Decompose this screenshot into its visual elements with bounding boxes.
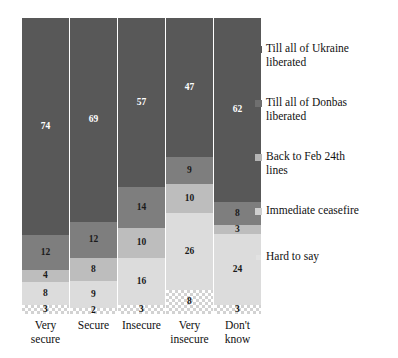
stacked-bar-chart: 7412483Verysecure6912892Secure571410163I…	[0, 0, 398, 358]
bar-stack: 571410163	[118, 18, 165, 314]
bar-segment: 10	[166, 184, 213, 214]
bar-segment: 8	[22, 282, 69, 305]
bar-stack: 7412483	[22, 18, 69, 314]
legend-item[interactable]: Immediate ceasefire	[255, 204, 398, 218]
bar-group: 571410163	[118, 18, 165, 314]
bar-segment-value: 10	[137, 238, 147, 248]
bar-segment: 57	[118, 18, 165, 187]
bar-segment: 8	[214, 202, 261, 226]
legend-swatch-icon	[255, 100, 262, 107]
legend-item[interactable]: Till all of Ukraineliberated	[255, 42, 398, 69]
bar-segment-value: 9	[187, 166, 192, 176]
bar-segment-value: 24	[233, 265, 243, 275]
bar-segment-value: 8	[43, 289, 48, 299]
legend-swatch-icon	[255, 208, 262, 215]
bar-segment-value: 3	[235, 305, 240, 315]
bar-segment: 14	[118, 187, 165, 228]
plot-area: 7412483Verysecure6912892Secure571410163I…	[0, 0, 252, 358]
bar-segment: 12	[22, 235, 69, 270]
bar-segment-value: 2	[91, 306, 96, 316]
bar-stack: 6283243	[214, 18, 261, 314]
legend-swatch-icon	[255, 46, 262, 53]
bar-segment: 16	[118, 258, 165, 305]
bar-segment: 8	[166, 290, 213, 314]
bar-segment-value: 8	[91, 265, 96, 275]
legend-swatch-icon	[256, 255, 261, 260]
legend-label: Immediate ceasefire	[266, 204, 359, 218]
bar-group: 7412483	[22, 18, 69, 314]
bar-segment-value: 16	[137, 277, 147, 287]
bar-segment-value: 10	[185, 194, 195, 204]
legend-label-line2: liberated	[266, 110, 347, 124]
bar-segment: 4	[22, 270, 69, 282]
bar-segment: 62	[214, 18, 261, 202]
legend-label-line1: Till all of Donbas	[266, 96, 347, 110]
legend-swatch-icon	[255, 154, 262, 161]
bar-segment-value: 74	[41, 122, 51, 132]
legend-item[interactable]: Back to Feb 24thlines	[255, 150, 398, 177]
bar-group: 47910268	[166, 18, 213, 314]
bar-segment-value: 12	[89, 235, 99, 245]
bar-segment: 8	[70, 258, 117, 282]
bar-segment-value: 69	[89, 115, 99, 125]
legend-label-line2: liberated	[266, 56, 349, 70]
bar-segment: 69	[70, 18, 117, 222]
legend-label-line1: Hard to say	[266, 250, 319, 264]
bar-segment-value: 26	[185, 247, 195, 257]
category-label-line2: know	[207, 332, 269, 346]
bar-segment-value: 9	[91, 290, 96, 300]
bar-segment: 26	[166, 213, 213, 290]
bar-segment: 9	[70, 281, 117, 308]
legend-item[interactable]: Hard to say	[255, 250, 398, 264]
category-label-line2: secure	[15, 332, 77, 346]
bar-segment-value: 3	[139, 305, 144, 315]
legend-label-line1: Immediate ceasefire	[266, 204, 359, 218]
legend-label: Hard to say	[266, 250, 319, 264]
bar-stack: 6912892	[70, 18, 117, 314]
bar-segment-value: 62	[233, 105, 243, 115]
bar-segment-value: 57	[137, 98, 147, 108]
bar-segment-value: 47	[185, 83, 195, 93]
bar-segment: 74	[22, 18, 69, 235]
bar-segment-value: 8	[235, 209, 240, 219]
bar-segment: 10	[118, 228, 165, 258]
bar-segment-value: 4	[43, 271, 48, 281]
category-label: Don'tknow	[207, 318, 269, 346]
bar-segment-value: 8	[187, 297, 192, 307]
bar-segment: 12	[70, 222, 117, 258]
bar-segment: 3	[214, 225, 261, 234]
category-label-line1: Don't	[207, 318, 269, 332]
legend-label: Till all of Ukraineliberated	[266, 42, 349, 69]
bar-group: 6283243	[214, 18, 261, 314]
bar-segment: 47	[166, 18, 213, 157]
legend-label: Back to Feb 24thlines	[266, 150, 345, 177]
legend-label-line1: Till all of Ukraine	[266, 42, 349, 56]
bar-segment: 3	[118, 305, 165, 314]
legend-label: Till all of Donbasliberated	[266, 96, 347, 123]
bar-stack: 47910268	[166, 18, 213, 314]
bar-segment: 3	[214, 305, 261, 314]
bar-segment: 2	[70, 308, 117, 314]
bar-segment: 9	[166, 157, 213, 184]
bar-segment-value: 14	[137, 203, 147, 213]
legend-label-line1: Back to Feb 24th	[266, 150, 345, 164]
bar-segment: 3	[22, 305, 69, 314]
bar-group: 6912892	[70, 18, 117, 314]
bar-segment: 24	[214, 234, 261, 305]
legend-item[interactable]: Till all of Donbasliberated	[255, 96, 398, 123]
legend-label-line2: lines	[266, 164, 345, 178]
bar-segment-value: 3	[235, 225, 240, 235]
bar-segment-value: 12	[41, 248, 51, 258]
bar-segment-value: 3	[43, 305, 48, 315]
